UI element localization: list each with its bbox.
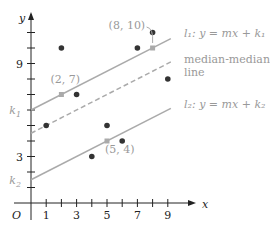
data-point [74, 92, 80, 98]
x-tick-label: 3 [73, 209, 80, 222]
x-tick-label: 7 [134, 209, 141, 222]
data-point [89, 154, 95, 160]
x-axis-label: x [202, 198, 209, 211]
x-axis-arrow [188, 200, 196, 206]
labels: 1357939k1k2Oxyl₁: y = mx + k₁median-medi… [9, 12, 270, 222]
axes [14, 12, 196, 220]
y-tick-label: 9 [16, 58, 23, 71]
summary-point [59, 92, 64, 97]
intercept-label-k2: k2 [9, 174, 21, 189]
l1-label: l₁: y = mx + k₁ [184, 27, 265, 40]
data-point [43, 123, 49, 129]
data-point [165, 76, 171, 82]
summary-label-1: (2, 7) [50, 73, 80, 86]
data-point [104, 123, 110, 129]
intercept-label-k1: k1 [9, 104, 21, 119]
median-median-label-1: median-median [184, 53, 270, 66]
median-median-chart: 1357939k1k2Oxyl₁: y = mx + k₁median-medi… [0, 0, 270, 228]
summary-point [150, 46, 155, 51]
summary-label-3: (8, 10) [109, 19, 146, 32]
summary-label-2: (5, 4) [105, 143, 135, 156]
origin-label: O [12, 209, 21, 222]
data-point [59, 45, 65, 51]
l2-label: l₂: y = mx + k₂ [184, 98, 265, 111]
median-median-label-2: line [184, 66, 205, 79]
x-tick-label: 9 [164, 209, 171, 222]
data-point [135, 45, 141, 51]
x-tick-label: 5 [104, 209, 111, 222]
line-l2 [31, 108, 171, 179]
x-tick-label: 1 [43, 209, 50, 222]
y-axis-label: y [18, 12, 26, 25]
y-tick-label: 3 [16, 151, 23, 164]
y-axis-arrow [28, 12, 34, 20]
fit-lines [31, 39, 171, 180]
